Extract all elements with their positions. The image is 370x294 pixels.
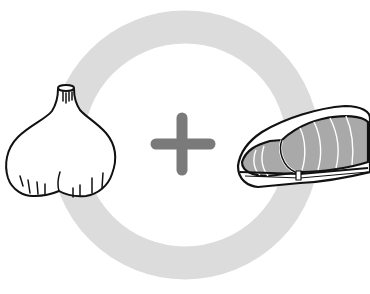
illustration-canvas	[0, 0, 370, 294]
meat-icon	[238, 106, 370, 187]
plus-icon	[156, 118, 210, 170]
garlic-icon	[6, 85, 115, 197]
